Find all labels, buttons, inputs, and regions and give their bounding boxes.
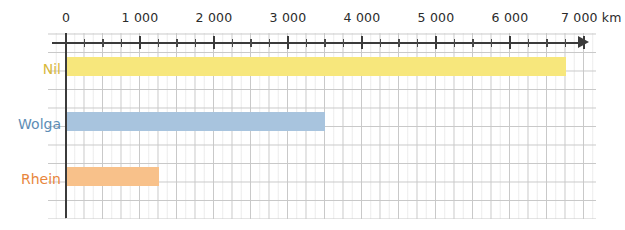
axis-tick-label: 0 [62,10,70,25]
axis-tick-major [583,36,585,49]
axis-tick-minor [324,39,325,47]
bar-wolga [67,112,325,131]
bar-rhein [67,167,159,186]
axis-tick-label: 4 000 [344,10,381,25]
axis-tick-minor [195,39,196,47]
axis-tick-major [509,36,511,49]
axis-tick-label: 1 000 [122,10,159,25]
bar-label-wrap: Rhein [0,169,61,188]
bar-label-rhein: Rhein [21,171,61,187]
axis-tick-minor [491,39,492,47]
axis-tick-major [287,36,289,49]
axis-tick-minor [528,39,529,47]
axis-tick-label: 5 000 [418,10,455,25]
bar-label-wrap: Nil [0,59,61,78]
axis-tick-major [65,36,67,49]
axis-tick-label: 7 000 km [561,10,622,25]
river-length-bar-chart: 01 0002 0003 0004 0005 0006 0007 000 km … [0,0,625,230]
axis-tick-minor [417,39,418,47]
axis-tick-major [361,36,363,49]
axis-tick-minor [250,39,251,47]
axis-tick-minor [121,39,122,47]
axis-tick-minor [84,39,85,47]
axis-tick-minor [565,39,566,47]
axis-tick-minor [176,39,177,47]
axis-tick-major [435,36,437,49]
axis-tick-minor [454,39,455,47]
bar-label-nil: Nil [43,61,61,77]
axis-tick-minor [306,39,307,47]
axis-tick-minor [546,39,547,47]
axis-tick-label: 2 000 [196,10,233,25]
axis-tick-minor [343,39,344,47]
axis-tick-minor [158,39,159,47]
axis-tick-label: 3 000 [270,10,307,25]
axis-tick-major [213,36,215,49]
bar-nil [67,57,566,76]
axis-tick-minor [102,39,103,47]
bar-label-wrap: Wolga [0,114,61,133]
axis-tick-minor [269,39,270,47]
axis-tick-major [139,36,141,49]
axis-tick-minor [398,39,399,47]
axis-tick-minor [380,39,381,47]
axis-tick-label: 6 000 [492,10,529,25]
x-axis-line [52,42,585,44]
axis-tick-minor [472,39,473,47]
axis-tick-minor [232,39,233,47]
bar-label-wolga: Wolga [18,116,61,132]
